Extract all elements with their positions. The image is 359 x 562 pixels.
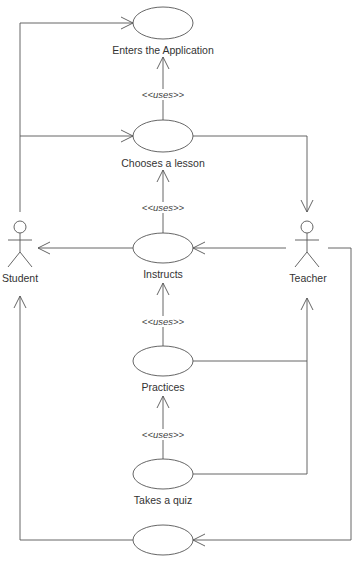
student-actor-icon [8,221,32,267]
use-case-practices-label: Practices [141,381,184,393]
use-case-quiz-label: Takes a quiz [134,494,192,506]
use-case-enters-label: Enters the Application [112,44,214,56]
use-case-chooses-ellipse [133,120,193,152]
uses-stereotype-label: <<uses>> [141,429,185,440]
use-case-quiz-ellipse [133,459,193,489]
use-case-practices-ellipse [133,346,193,376]
use-case-diagram: Enters the Application Chooses a lesson … [0,0,359,562]
actor-teacher-label: Teacher [289,272,326,284]
use-case-enters-ellipse [133,7,193,39]
use-case-chooses-label: Chooses a lesson [121,157,204,169]
uses-stereotype-label: <<uses>> [141,202,185,213]
use-case-unlabeled-ellipse [133,525,193,555]
use-case-instructs-ellipse [133,233,193,263]
use-case-instructs-label: Instructs [143,268,183,280]
teacher-actor-icon [295,221,319,267]
uses-stereotype-label: <<uses>> [141,316,185,327]
actor-student-label: Student [2,272,38,284]
uses-stereotype-label: <<uses>> [141,89,185,100]
